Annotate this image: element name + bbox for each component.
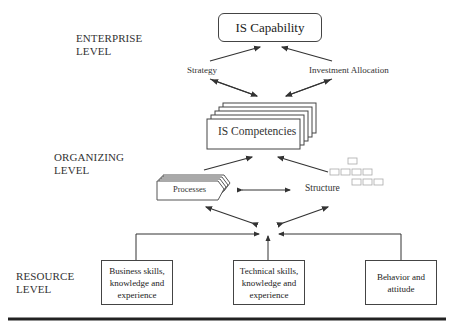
arrow-resource-processes: [206, 207, 252, 223]
investment-allocation-label: Investment Allocation: [309, 65, 389, 75]
is-competencies-label: IS Competencies: [218, 125, 296, 137]
resource-level-label: RESOURCELEVEL: [16, 270, 74, 296]
enterprise-level-label: ENTERPRISELEVEL: [76, 32, 142, 58]
connector-behavior: [279, 234, 401, 260]
arrow-investment-to-capability: [282, 47, 332, 61]
structure-label: Structure: [305, 183, 340, 193]
arrow-resource-structure: [283, 207, 328, 223]
arrow-structure-to-competencies: [278, 157, 328, 172]
organizing-level-label: ORGANIZINGLEVEL: [54, 151, 124, 177]
technical-skills-node: Technical skills,knowledge andexperience: [233, 260, 305, 305]
behavior-attitude-node: Behavior andattitude: [365, 260, 437, 305]
processes-label: Processes: [173, 184, 206, 194]
org-chart-icon: [330, 158, 383, 185]
business-skills-node: Business skills,knowledge andexperience: [101, 260, 173, 305]
strategy-label: Strategy: [187, 65, 217, 75]
arrow-processes-to-competencies: [204, 157, 252, 170]
is-capability-node: IS Capability: [218, 13, 322, 42]
connector-business: [136, 234, 259, 260]
arrow-strategy-to-capability: [210, 47, 260, 61]
